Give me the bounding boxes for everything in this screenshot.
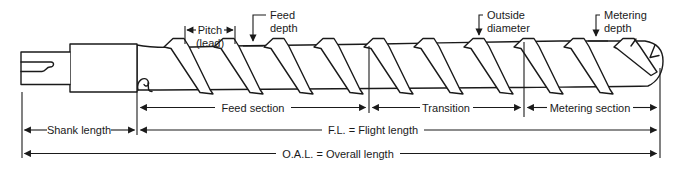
metering-depth-label-line2: depth [604, 22, 632, 34]
pitch-label-line1: Pitch [198, 24, 222, 36]
screw-diagram-canvas: Pitch (lead) Feed depth Outside diameter… [0, 0, 681, 173]
flight-length-label: F.L. = Flight length [328, 124, 418, 136]
metering-depth-label-line1: Metering [604, 9, 647, 21]
pitch-label-line2: (lead) [196, 37, 224, 49]
overall-length-label: O.A.L. = Overall length [282, 148, 394, 160]
outside-diameter-label-line2: diameter [487, 22, 530, 34]
length-dimensions: Shank length F.L. = Flight length O.A.L.… [25, 124, 657, 160]
shank-length-label: Shank length [47, 124, 111, 136]
metering-depth-leader [596, 15, 600, 36]
transition-label: Transition [422, 102, 470, 114]
outside-diameter-leader [479, 15, 483, 35]
screw-nomenclature-diagram: Pitch (lead) Feed depth Outside diameter… [0, 0, 681, 173]
feed-depth-label-line1: Feed [270, 9, 295, 21]
feed-depth-label-line2: depth [270, 22, 298, 34]
screw-drawing [21, 39, 663, 95]
section-dimensions: Feed section Transition Metering section [141, 102, 657, 114]
outside-diameter-label-line1: Outside [487, 9, 525, 21]
screw-shank-block [70, 44, 137, 92]
feed-depth-leader [253, 15, 266, 41]
screw-shank-fork [21, 52, 70, 85]
feed-section-label: Feed section [222, 102, 285, 114]
outside-diameter-callout: Outside diameter [479, 9, 530, 35]
metering-section-label: Metering section [550, 102, 631, 114]
metering-depth-callout: Metering depth [588, 9, 647, 41]
